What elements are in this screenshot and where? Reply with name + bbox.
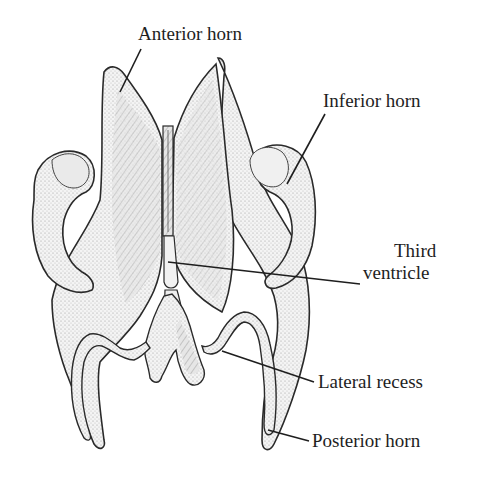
label-lateral-recess: Lateral recess — [318, 372, 423, 391]
label-anterior-horn: Anterior horn — [138, 24, 242, 43]
label-third-ventricle-line1: Third — [394, 241, 436, 260]
label-posterior-horn: Posterior horn — [312, 431, 420, 450]
label-inferior-horn: Inferior horn — [323, 91, 421, 110]
label-third-ventricle-line2: ventricle — [363, 263, 429, 282]
central-lower-structure — [145, 294, 205, 385]
right-lateral-recess — [202, 312, 276, 435]
